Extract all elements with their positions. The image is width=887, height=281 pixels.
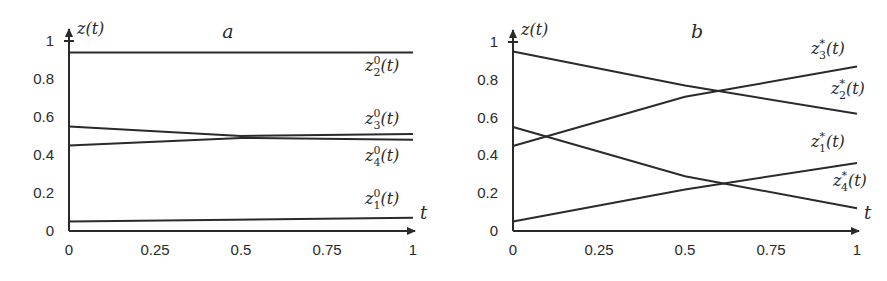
- series-label: z*3(t): [810, 37, 845, 62]
- x-tick-label: 1: [853, 241, 861, 258]
- y-tick-label: 0.6: [477, 109, 498, 126]
- series-label: z01(t): [364, 187, 399, 212]
- y-tick-label: 0.4: [477, 146, 498, 163]
- y-tick-label: 0: [46, 222, 54, 239]
- y-tick-label: 0.8: [33, 70, 54, 87]
- x-tick-label: 0.25: [584, 241, 613, 258]
- x-tick-label: 0.5: [675, 241, 696, 258]
- x-tick-label: 0: [65, 241, 73, 258]
- series-label: z02(t): [364, 54, 399, 79]
- y-axis-label: z(t): [76, 19, 104, 38]
- chart-panel-a: 00.20.40.60.8100.250.50.751z(t)taz02(t)z…: [33, 19, 428, 258]
- series-label: z03(t): [364, 107, 399, 132]
- panel-title: a: [222, 20, 233, 42]
- series-line-1: [513, 51, 857, 113]
- series-label: z04(t): [364, 144, 399, 169]
- x-tick-label: 0.5: [231, 241, 252, 258]
- series-label: z*4(t): [832, 169, 867, 194]
- series-line-3: [69, 218, 413, 222]
- x-tick-label: 0.75: [756, 241, 785, 258]
- y-tick-label: 0: [490, 222, 498, 239]
- series-line-2: [69, 138, 413, 146]
- series-line-2: [513, 163, 857, 222]
- y-tick-label: 0.6: [33, 108, 54, 125]
- panel-title: b: [691, 20, 703, 42]
- y-tick-label: 1: [490, 33, 498, 50]
- series-line-3: [513, 127, 857, 208]
- x-tick-label: 0.75: [312, 241, 341, 258]
- x-tick-label: 0: [509, 241, 517, 258]
- figure: 00.20.40.60.8100.250.50.751z(t)taz02(t)z…: [0, 0, 887, 281]
- y-axis-label: z(t): [520, 20, 548, 39]
- x-tick-label: 0.25: [140, 241, 169, 258]
- series-label: z*2(t): [830, 77, 865, 102]
- y-tick-label: 0.8: [477, 71, 498, 88]
- chart-panel-b: 00.20.40.60.8100.250.50.751z(t)tbz*3(t)z…: [477, 20, 872, 258]
- series-line-1: [69, 127, 413, 137]
- y-tick-label: 0.2: [477, 184, 498, 201]
- y-tick-label: 0.2: [33, 184, 54, 201]
- x-axis-label: t: [864, 202, 872, 223]
- series-label: z*1(t): [810, 130, 845, 155]
- x-axis-label: t: [420, 202, 428, 223]
- x-tick-label: 1: [409, 241, 417, 258]
- y-tick-label: 0.4: [33, 146, 54, 163]
- y-tick-label: 1: [46, 32, 54, 49]
